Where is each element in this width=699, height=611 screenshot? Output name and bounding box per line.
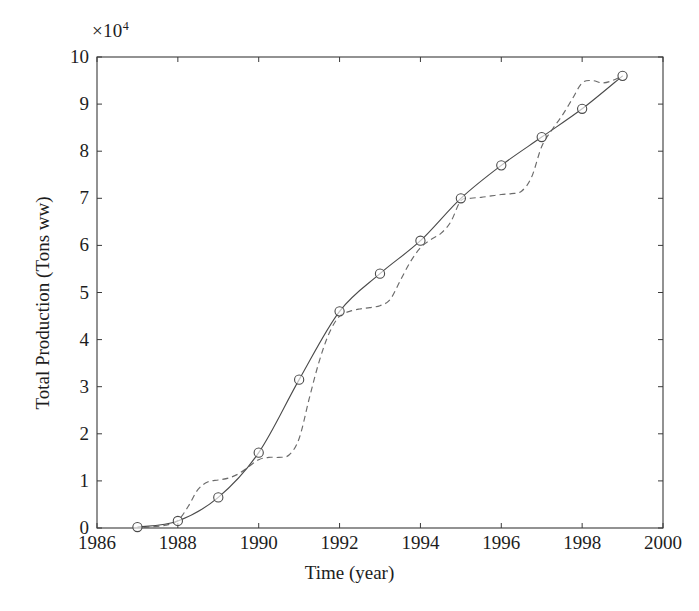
axes-frame xyxy=(97,57,663,528)
x-tick-label: 1988 xyxy=(159,532,197,554)
y-tick-label: 3 xyxy=(49,376,89,398)
x-tick-label: 1994 xyxy=(401,532,439,554)
x-axis-title: Time (year) xyxy=(0,562,699,584)
x-tick-label: 2000 xyxy=(644,532,682,554)
x-tick-label: 1996 xyxy=(482,532,520,554)
y-tick-label: 4 xyxy=(49,329,89,351)
x-tick-label: 1992 xyxy=(321,532,359,554)
plot-canvas xyxy=(0,0,699,611)
series-observed-markers xyxy=(133,71,627,531)
y-tick-label: 6 xyxy=(49,234,89,256)
series-model-line xyxy=(133,76,622,528)
y-axis-exponent-base: ×10 xyxy=(92,20,123,41)
chart-figure: ×104 Total Production (Tons ww) Time (ye… xyxy=(0,0,699,611)
y-tick-label: 5 xyxy=(49,282,89,304)
x-tick-label: 1990 xyxy=(240,532,278,554)
y-tick-label: 7 xyxy=(49,187,89,209)
y-tick-label: 0 xyxy=(49,517,89,539)
x-tick-label: 1998 xyxy=(563,532,601,554)
series-observed-line xyxy=(137,76,622,527)
y-tick-label: 2 xyxy=(49,423,89,445)
y-axis-exponent-label: ×104 xyxy=(92,20,129,42)
axis-ticks xyxy=(97,57,663,528)
y-axis-exponent-power: 4 xyxy=(123,19,129,33)
y-tick-label: 9 xyxy=(49,93,89,115)
y-tick-label: 8 xyxy=(49,140,89,162)
y-tick-label: 1 xyxy=(49,470,89,492)
y-tick-label: 10 xyxy=(49,46,89,68)
